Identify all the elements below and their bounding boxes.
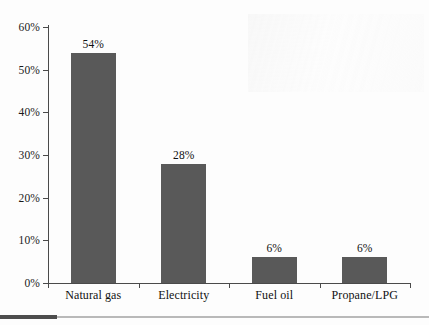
y-axis-tick bbox=[43, 198, 48, 199]
y-axis-tick-label: 60% bbox=[19, 21, 40, 33]
y-axis-tick-label: 20% bbox=[19, 192, 40, 204]
x-axis-category-label: Electricity bbox=[158, 288, 209, 303]
bar-value-label: 54% bbox=[83, 38, 104, 50]
bar-natural-gas: 54% bbox=[71, 53, 116, 283]
footer-divider-accent bbox=[0, 315, 57, 319]
x-axis-tick bbox=[48, 283, 49, 288]
plot-area: 0%10%20%30%40%50%60% 54%28%6%6% bbox=[48, 27, 410, 283]
x-axis-tick bbox=[139, 283, 140, 288]
x-axis-category-label: Natural gas bbox=[65, 288, 121, 303]
footer-divider-rule bbox=[0, 316, 429, 318]
bar-value-label: 28% bbox=[173, 149, 194, 161]
x-axis-tick bbox=[229, 283, 230, 288]
y-axis-tick-label: 0% bbox=[24, 277, 40, 289]
y-axis-tick bbox=[43, 112, 48, 113]
bar-electricity: 28% bbox=[161, 164, 206, 283]
bar-value-label: 6% bbox=[266, 242, 282, 254]
bar-propane-lpg: 6% bbox=[342, 257, 387, 283]
y-axis-tick-label: 50% bbox=[19, 64, 40, 76]
y-axis-tick bbox=[43, 70, 48, 71]
y-axis-tick-label: 40% bbox=[19, 106, 40, 118]
y-axis-tick-label: 30% bbox=[19, 149, 40, 161]
y-axis-tick bbox=[43, 27, 48, 28]
x-axis-category-label: Fuel oil bbox=[255, 288, 293, 303]
y-axis-tick bbox=[43, 240, 48, 241]
x-axis-tick bbox=[410, 283, 411, 288]
bar-chart-figure: 0%10%20%30%40%50%60% 54%28%6%6% Natural … bbox=[0, 0, 429, 325]
x-axis-tick bbox=[320, 283, 321, 288]
bar-value-label: 6% bbox=[357, 242, 373, 254]
x-axis-category-label: Propane/LPG bbox=[332, 288, 398, 303]
y-axis-tick-label: 10% bbox=[19, 234, 40, 246]
bar-fuel-oil: 6% bbox=[252, 257, 297, 283]
y-axis-tick bbox=[43, 155, 48, 156]
